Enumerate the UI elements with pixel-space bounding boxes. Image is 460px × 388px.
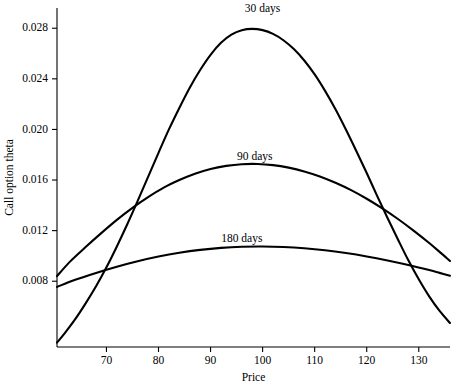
x-tick-label: 80 [153,354,165,366]
y-axis-ticks: 0.0080.0120.0160.0200.0240.028 [22,21,57,286]
chart-container: 0.0080.0120.0160.0200.0240.028 708090100… [0,0,460,388]
x-axis-ticks: 708090100110120130 [101,347,428,366]
x-tick-label: 130 [410,354,428,366]
x-tick-label: 70 [101,354,113,366]
call-option-theta-chart: 0.0080.0120.0160.0200.0240.028 708090100… [0,0,460,388]
y-tick-label: 0.028 [22,21,48,33]
series-line-90-days [57,164,450,276]
y-tick-label: 0.020 [22,123,48,135]
series-label-30-days: 30 days [245,2,281,15]
x-tick-label: 110 [306,354,323,366]
y-tick-label: 0.024 [22,72,48,84]
x-axis-title: Price [242,371,266,383]
y-tick-label: 0.012 [22,224,48,236]
axes-group [57,8,450,347]
series-annotations: 30 days90 days180 days [221,2,281,245]
data-curves [57,29,450,343]
y-axis-title: Call option theta [3,139,16,216]
series-label-180-days: 180 days [221,232,263,245]
y-tick-label: 0.016 [22,173,48,185]
x-tick-label: 100 [254,354,272,366]
series-label-90-days: 90 days [237,150,273,163]
series-line-180-days [57,246,450,286]
x-tick-label: 120 [358,354,376,366]
series-line-30-days [57,29,450,343]
x-tick-label: 90 [205,354,217,366]
y-tick-label: 0.008 [22,274,48,286]
